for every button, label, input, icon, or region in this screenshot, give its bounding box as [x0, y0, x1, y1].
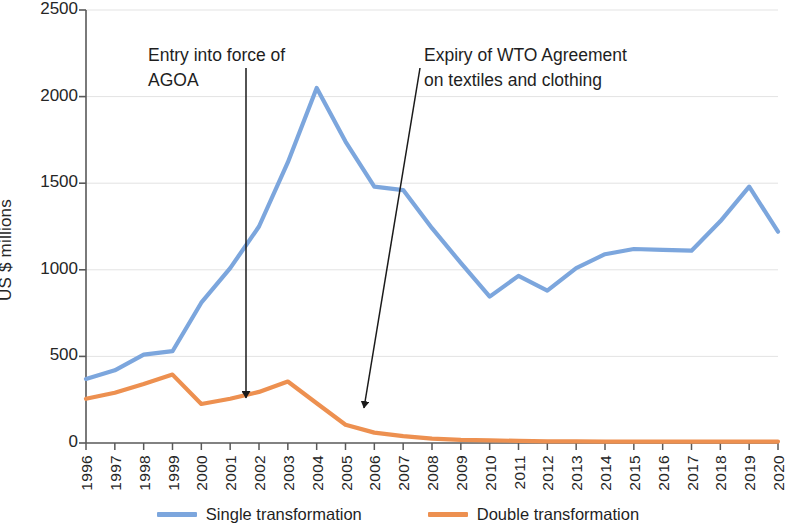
data-series-layer: [86, 88, 778, 442]
legend-swatch-icon: [157, 512, 197, 517]
chart-legend: Single transformationDouble transformati…: [0, 505, 796, 524]
plot-area: [0, 0, 796, 532]
line-chart-figure: US $ millions 05001000150020002500 19961…: [0, 0, 796, 532]
series-line: [86, 88, 778, 379]
legend-item[interactable]: Single transformation: [157, 505, 362, 524]
annotation-wto-expiry: Expiry of WTO Agreement on textiles and …: [424, 43, 627, 93]
annotation-arrow-wto-expiry: [364, 68, 420, 408]
legend-swatch-icon: [428, 512, 468, 517]
legend-item[interactable]: Double transformation: [428, 505, 639, 524]
legend-label: Single transformation: [206, 505, 362, 524]
series-line: [86, 375, 778, 442]
legend-label: Double transformation: [477, 505, 639, 524]
annotation-agoa: Entry into force of AGOA: [148, 43, 285, 93]
x-tick-marks: [86, 443, 778, 450]
